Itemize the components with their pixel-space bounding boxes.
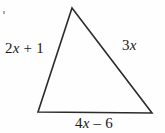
- left-constant: 1: [36, 40, 44, 56]
- bottom-operator: –: [90, 115, 106, 131]
- right-variable: x: [130, 37, 137, 53]
- left-coefficient: 2: [5, 40, 13, 56]
- triangle-drawing: [0, 0, 165, 133]
- geometry-figure: 2x + 1 3x 4x – 6: [0, 0, 165, 133]
- left-operator: +: [20, 40, 37, 56]
- side-label-bottom: 4x – 6: [75, 116, 113, 131]
- right-coefficient: 3: [122, 37, 130, 53]
- side-label-right: 3x: [122, 38, 137, 53]
- scan-speck-artifact: [3, 11, 5, 14]
- left-variable: x: [13, 40, 20, 56]
- bottom-variable: x: [83, 115, 90, 131]
- bottom-coefficient: 4: [75, 115, 83, 131]
- side-label-left: 2x + 1: [5, 41, 44, 56]
- triangle-outline: [38, 8, 152, 113]
- bottom-constant: 6: [105, 115, 113, 131]
